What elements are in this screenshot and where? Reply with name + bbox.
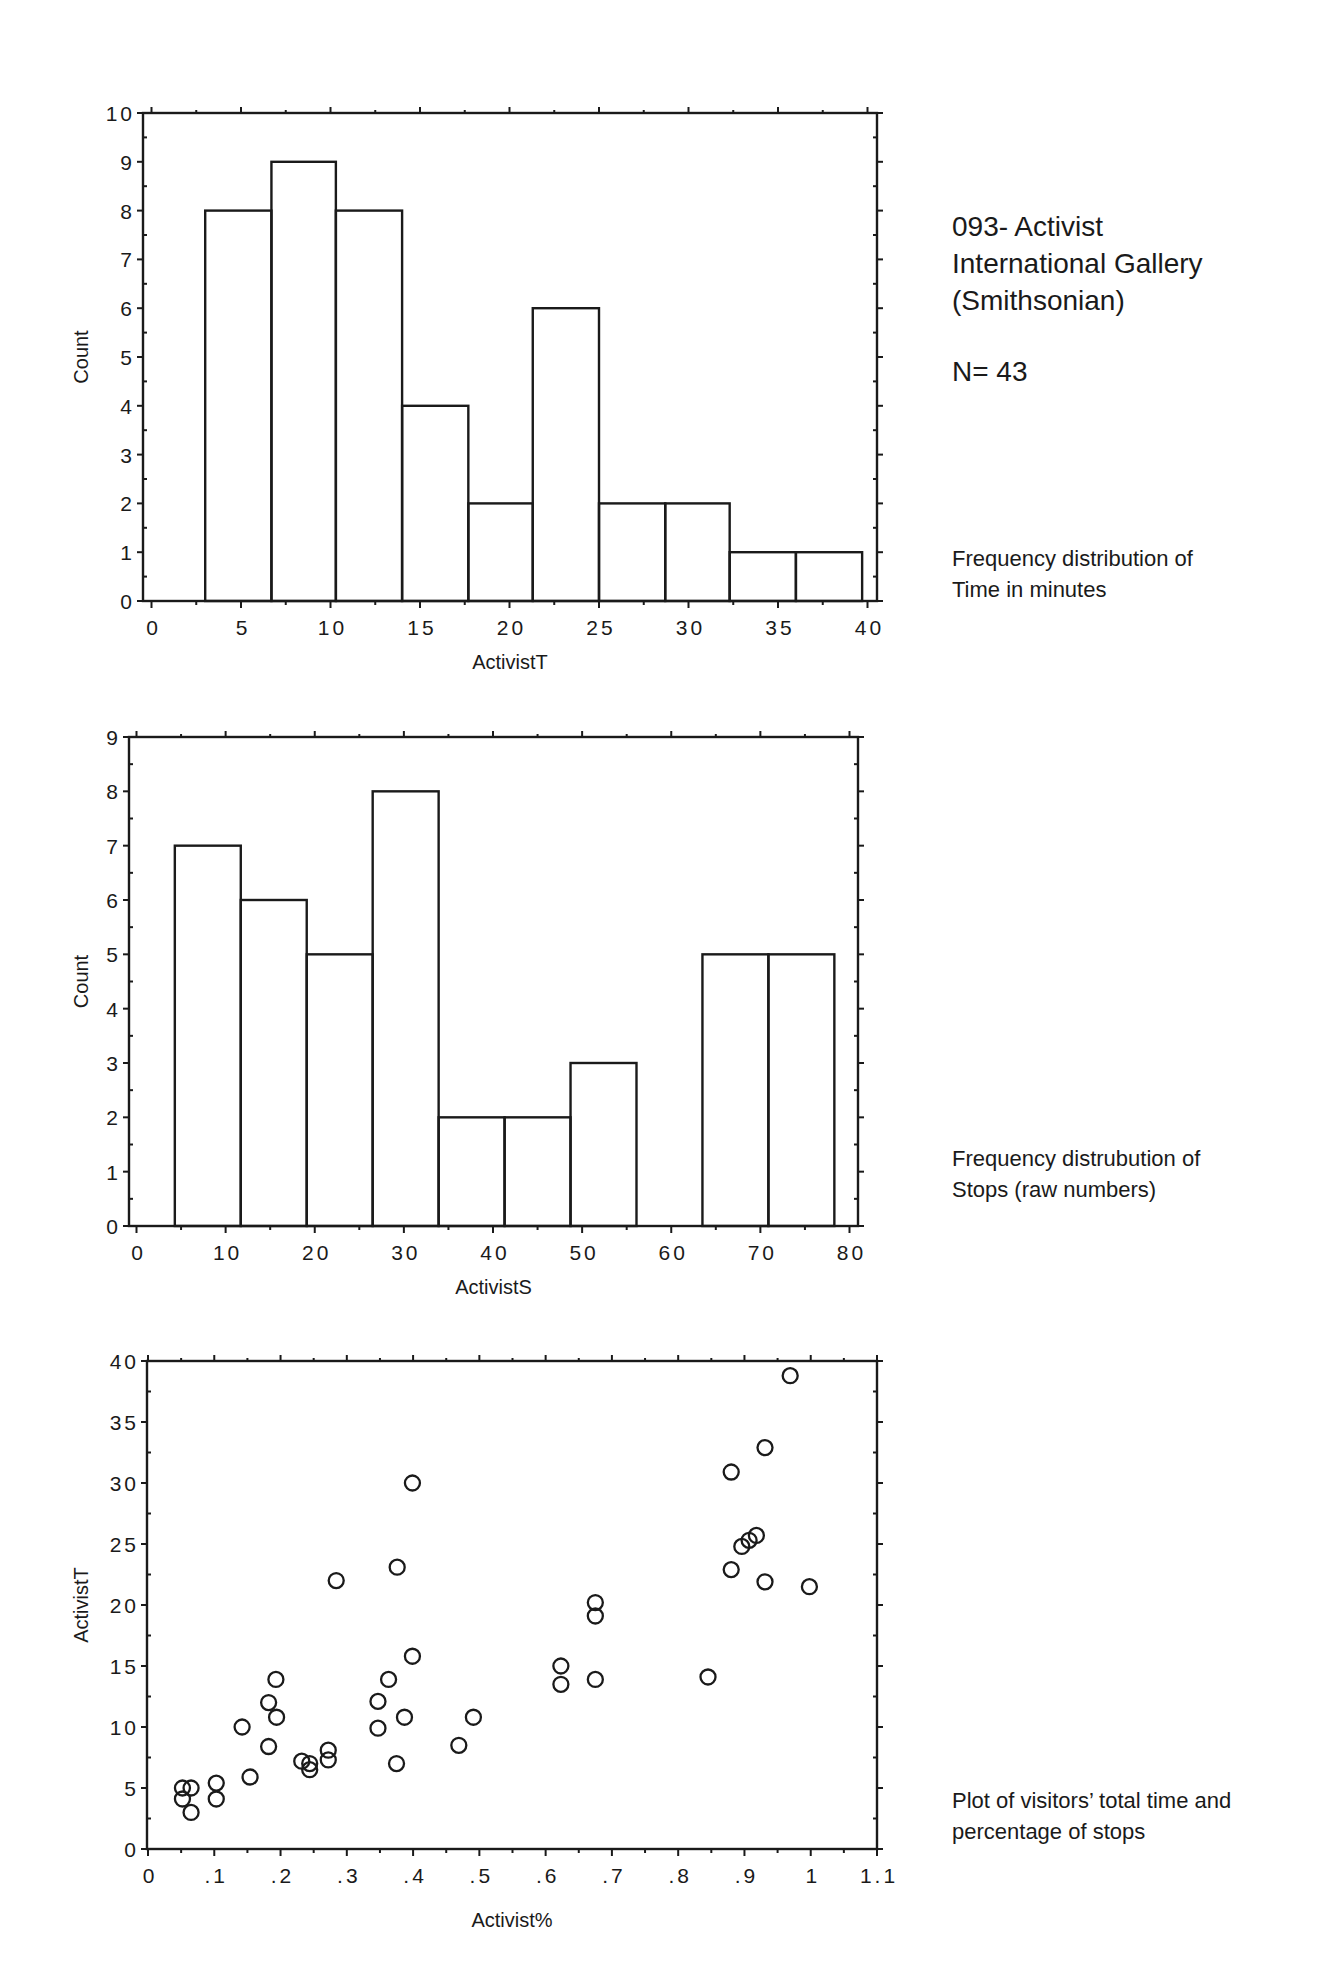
data-point [466,1710,481,1725]
x-tick-label: .9 [735,1864,759,1887]
y-tick-label: 7 [106,835,121,858]
x-tick-label: 1.1 [860,1864,898,1887]
x-tick-label: 10 [318,616,347,639]
data-point [724,1562,739,1577]
data-point [381,1672,396,1687]
exhibit-title-line: 093- Activist [952,208,1203,245]
y-tick-label: 3 [120,444,135,467]
plot-frame [129,737,858,1226]
y-tick-label: 5 [106,943,121,966]
histogram-bar [241,900,307,1226]
x-tick-label: 70 [748,1241,777,1264]
data-point [802,1579,817,1594]
y-tick-label: 1 [120,541,135,564]
data-point [405,1476,420,1491]
time-vs-percentage-scatter: 05101520253035400.1.2.3.4.5.6.7.8.911.1A… [0,1300,1342,1972]
data-point [175,1791,190,1806]
x-tick-label: 80 [837,1241,866,1264]
data-point [389,1756,404,1771]
y-tick-label: 25 [110,1533,139,1556]
x-tick-label: 60 [659,1241,688,1264]
y-tick-label: 15 [110,1655,139,1678]
y-tick-label: 5 [124,1777,139,1800]
histogram-bar [571,1063,637,1226]
x-tick-label: .8 [668,1864,692,1887]
y-tick-label: 5 [120,346,135,369]
y-tick-label: 30 [110,1472,139,1495]
y-tick-label: 10 [110,1716,139,1739]
data-point [553,1659,568,1674]
y-tick-label: 6 [106,889,121,912]
caption-line: Stops (raw numbers) [952,1174,1200,1205]
caption-line: Plot of visitors’ total time and [952,1785,1231,1816]
y-tick-label: 1 [106,1161,121,1184]
caption-line: Frequency distrubution of [952,1143,1200,1174]
histogram-bar [175,846,241,1226]
caption-line: Frequency distribution of [952,543,1193,574]
data-point [329,1573,344,1588]
y-tick-label: 6 [120,297,135,320]
y-tick-label: 10 [106,102,135,125]
x-tick-label: 1 [805,1864,820,1887]
caption-line: Time in minutes [952,574,1193,605]
data-point [757,1440,772,1455]
histogram-bar [533,308,599,601]
data-point [783,1368,798,1383]
data-point [268,1672,283,1687]
y-tick-label: 35 [110,1411,139,1434]
histogram-bar [468,503,532,601]
data-point [588,1672,603,1687]
x-tick-label: 50 [569,1241,598,1264]
x-tick-label: .7 [602,1864,626,1887]
y-tick-label: 40 [110,1350,139,1373]
histogram-bar [665,503,729,601]
data-point [397,1710,412,1725]
chart3-caption: Plot of visitors’ total time and percent… [952,1785,1231,1847]
data-point [235,1720,250,1735]
histogram-bar [730,552,796,601]
exhibit-title-line: (Smithsonian) [952,282,1203,319]
x-tick-label: .4 [403,1864,427,1887]
x-tick-label: 0 [131,1241,146,1264]
exhibit-title: 093- Activist International Gallery (Smi… [952,208,1203,319]
x-tick-label: 30 [391,1241,420,1264]
data-point [184,1805,199,1820]
histogram-bar [205,211,271,601]
x-axis-title: ActivistT [472,651,548,673]
histogram-bar [402,406,468,601]
x-tick-label: 5 [236,616,251,639]
data-point [405,1649,420,1664]
histogram-bar [599,503,665,601]
x-tick-label: .3 [337,1864,361,1887]
x-tick-label: .6 [536,1864,560,1887]
histogram-bar [336,211,402,601]
histogram-bar [796,552,862,601]
x-tick-label: 20 [302,1241,331,1264]
data-point [209,1791,224,1806]
x-tick-label: .2 [271,1864,295,1887]
x-tick-label: 40 [480,1241,509,1264]
y-tick-label: 4 [106,998,121,1021]
sample-size: N= 43 [952,356,1028,388]
data-point [321,1752,336,1767]
x-tick-label: 35 [765,616,794,639]
y-axis-title: Count [70,330,92,384]
y-axis-title: ActivistT [70,1567,92,1643]
y-tick-label: 0 [120,590,135,613]
histogram-bar [505,1117,571,1226]
x-tick-label: 0 [143,1864,158,1887]
data-point [261,1739,276,1754]
histogram-bar [373,791,439,1226]
chart1-caption: Frequency distribution of Time in minute… [952,543,1193,605]
data-point [724,1465,739,1480]
stops-histogram: 012345678901020304050607080ActivistSCoun… [0,680,1342,1320]
histogram-bar [271,162,335,601]
data-point [553,1677,568,1692]
y-tick-label: 2 [106,1106,121,1129]
data-point [370,1694,385,1709]
histogram-bar [439,1117,505,1226]
data-point [757,1574,772,1589]
x-tick-label: .1 [205,1864,229,1887]
chart2-caption: Frequency distrubution of Stops (raw num… [952,1143,1200,1205]
histogram-bar [768,954,834,1226]
